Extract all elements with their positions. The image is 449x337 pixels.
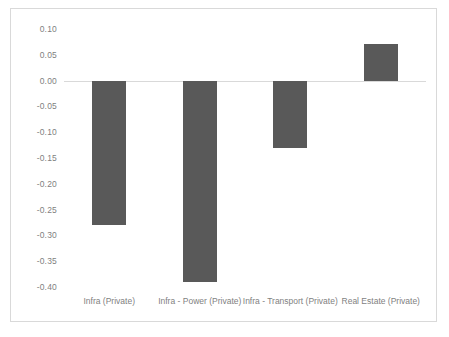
y-axis-tick-label: 0.00: [40, 76, 57, 86]
y-axis-tick-label: -0.10: [37, 127, 57, 137]
plot-area: 0.100.050.00-0.05-0.10-0.15-0.20-0.25-0.…: [64, 29, 426, 287]
x-axis-category-label: Real Estate (Private): [329, 296, 433, 308]
bar[interactable]: [273, 81, 307, 148]
bar-group: Real Estate (Private): [336, 29, 427, 287]
bar[interactable]: [92, 81, 126, 225]
bar-group: Infra - Transport (Private): [245, 29, 336, 287]
y-axis-tick-label: -0.30: [37, 230, 57, 240]
y-axis-tick-label: -0.25: [37, 205, 57, 215]
bar-series: Infra (Private)Infra - Power (Private)In…: [64, 29, 426, 287]
chart-frame: 0.100.050.00-0.05-0.10-0.15-0.20-0.25-0.…: [10, 8, 437, 322]
y-axis-tick-label: -0.05: [37, 101, 57, 111]
y-axis-tick-label: -0.15: [37, 153, 57, 163]
bar-group: Infra - Power (Private): [155, 29, 246, 287]
y-axis-tick-label: 0.10: [40, 24, 57, 34]
bar[interactable]: [364, 44, 398, 80]
y-axis-tick-label: 0.05: [40, 50, 57, 60]
y-axis-tick-label: -0.20: [37, 179, 57, 189]
x-axis-category-label: Infra - Power (Private): [148, 296, 252, 308]
bar[interactable]: [183, 81, 217, 282]
x-axis-category-label: Infra (Private): [57, 296, 161, 308]
x-axis-category-label: Infra - Transport (Private): [238, 296, 342, 308]
y-axis-tick-label: -0.35: [37, 256, 57, 266]
y-axis-tick-label: -0.40: [37, 282, 57, 292]
bar-group: Infra (Private): [64, 29, 155, 287]
